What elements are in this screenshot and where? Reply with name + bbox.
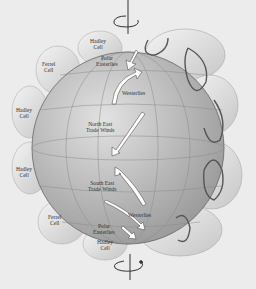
rotation-arrow-icon-top — [114, 0, 139, 34]
label-westerlies-south: Westerlies — [128, 212, 151, 218]
label-hadley-cell-bottom: HadleyCell — [97, 239, 113, 251]
label-se-trade-winds: South EastTrade Winds — [88, 180, 117, 192]
label-westerlies-north: Westerlies — [122, 90, 145, 96]
label-hadley-cell-top: HadleyCell — [90, 38, 106, 50]
circulation-diagram — [0, 0, 256, 289]
label-ferrel-cell-south: FerrelCell — [48, 214, 61, 226]
label-hadley-cell-south: HadleyCell — [16, 166, 32, 178]
label-hadley-cell-north: HadleyCell — [16, 107, 32, 119]
rotation-arrow-icon-bottom — [114, 254, 142, 280]
label-polar-easterlies-north: PolarEasterlies — [96, 55, 118, 67]
label-ne-trade-winds: North EastTrade Winds — [86, 121, 115, 133]
label-ferrel-cell-north: FerrelCell — [42, 61, 55, 73]
label-polar-easterlies-south: PolarEasterlies — [93, 223, 115, 235]
